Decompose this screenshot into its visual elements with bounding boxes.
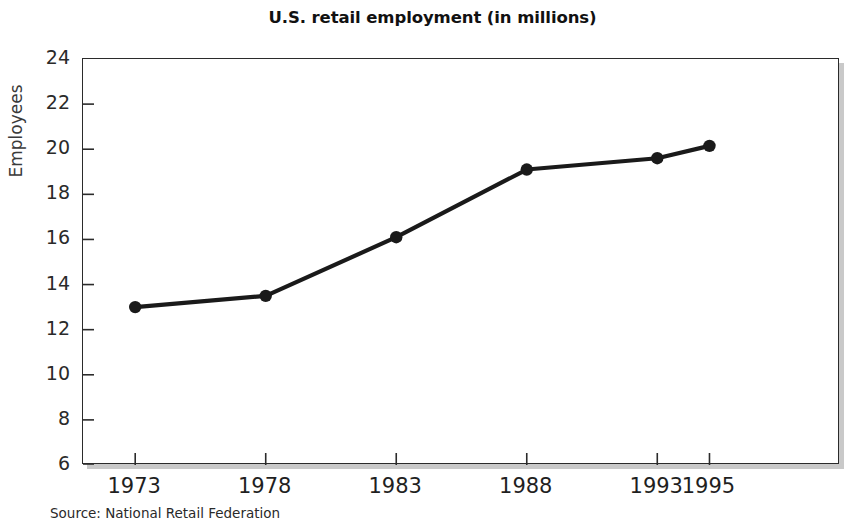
x-axis-tick-label: 1983 xyxy=(350,474,440,498)
data-point-marker xyxy=(521,163,533,175)
x-axis-tick-label: 1978 xyxy=(220,474,310,498)
y-axis-tick-label: 16 xyxy=(18,226,70,248)
x-axis-tick-label: 1973 xyxy=(89,474,179,498)
y-axis-tick-label: 18 xyxy=(18,181,70,203)
chart-figure: U.S. retail employment (in millions) Emp… xyxy=(0,0,865,526)
data-line xyxy=(135,146,709,307)
y-axis-tick-label: 6 xyxy=(18,452,70,474)
data-point-marker xyxy=(703,140,715,152)
y-axis-tick-label: 12 xyxy=(18,317,70,339)
y-axis-tick-label: 14 xyxy=(18,272,70,294)
data-point-marker xyxy=(651,152,663,164)
y-axis-tick-label: 20 xyxy=(18,136,70,158)
y-axis-tick-label: 10 xyxy=(18,362,70,384)
x-axis-tick-label: 1988 xyxy=(481,474,571,498)
y-axis-tick-label: 22 xyxy=(18,91,70,113)
source-note: Source: National Retail Federation xyxy=(50,505,280,521)
x-axis-tick-label: 1995 xyxy=(663,474,753,498)
y-axis-tick-label: 8 xyxy=(18,407,70,429)
plot-area xyxy=(82,58,839,464)
chart-title: U.S. retail employment (in millions) xyxy=(0,8,865,27)
data-point-marker xyxy=(129,301,141,313)
y-axis-tick-label: 24 xyxy=(18,46,70,68)
data-point-marker xyxy=(260,290,272,302)
data-point-marker xyxy=(390,231,402,243)
chart-plot-svg xyxy=(83,59,840,465)
